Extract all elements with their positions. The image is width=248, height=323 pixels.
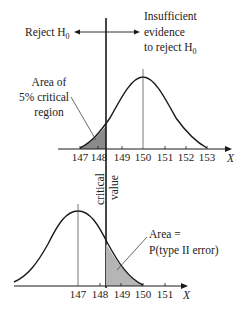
to-reject-label: to reject H0 (144, 41, 197, 56)
reject-label: Reject H0 (25, 26, 70, 41)
critical-region-label: 5% critical (19, 91, 69, 103)
region-label: region (34, 106, 64, 119)
type2-error-label: P(type II error) (149, 244, 219, 257)
tick-label: 152 (178, 151, 195, 163)
evidence-label: evidence (144, 26, 185, 38)
area-label: Area of (32, 76, 67, 88)
arrow-right-icon (134, 30, 140, 35)
tick-label: 153 (199, 151, 216, 163)
tick-label: 150 (135, 151, 152, 163)
pointer-line (117, 237, 147, 270)
type2-area-label: Area = (149, 228, 181, 240)
bottom-axis-label: X (182, 289, 191, 301)
value-label: value (108, 175, 120, 200)
critical-label: critical (94, 173, 106, 205)
tick-label: 150 (135, 288, 152, 300)
tick-label: 151 (157, 151, 174, 163)
tick-label: 149 (114, 288, 131, 300)
tick-label: 147 (72, 151, 89, 163)
arrow-left-icon (74, 30, 80, 35)
pointer-line (71, 97, 96, 140)
tick-label: 149 (114, 151, 131, 163)
tick-label: 147 (70, 288, 87, 300)
hypothesis-diagram: 147 148 149 150 151 152 153 X Reject H0 … (0, 0, 248, 323)
tick-label: 148 (92, 288, 109, 300)
tick-label: 151 (157, 288, 174, 300)
top-axis-label: X (226, 152, 235, 164)
insufficient-label: Insufficient (144, 10, 198, 22)
